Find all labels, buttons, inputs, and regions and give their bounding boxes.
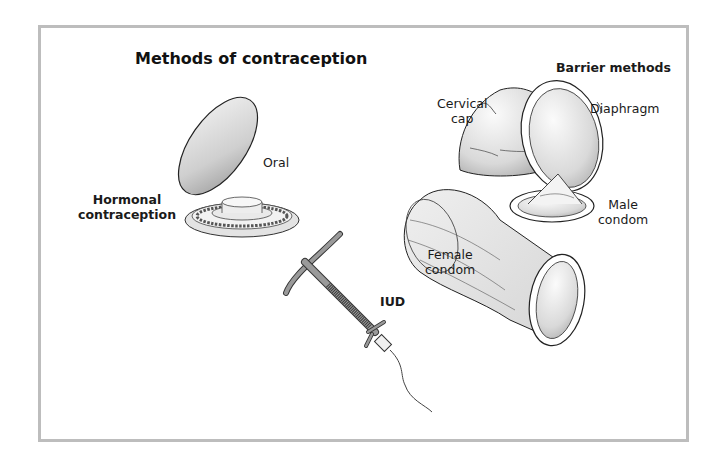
cervical-cap-label: Cervical cap	[437, 96, 487, 126]
male-condom-label-line-2: condom	[598, 212, 648, 227]
female-condom-label-line-2: condom	[425, 262, 475, 277]
male-condom-label-line-1: Male	[598, 197, 648, 212]
iud-label: IUD	[380, 294, 405, 309]
female-condom-label: Female condom	[425, 247, 475, 277]
cervical-cap-label-line-1: Cervical	[437, 96, 487, 111]
female-condom-label-line-1: Female	[425, 247, 475, 262]
hormonal-heading-line-1: Hormonal	[78, 192, 176, 207]
hormonal-heading: Hormonal contraception	[78, 192, 176, 222]
diagram-title: Methods of contraception	[135, 49, 367, 68]
oral-label: Oral	[263, 155, 289, 170]
male-condom-label: Male condom	[598, 197, 648, 227]
barrier-methods-heading: Barrier methods	[556, 60, 671, 75]
hormonal-heading-line-2: contraception	[78, 207, 176, 222]
cervical-cap-label-line-2: cap	[437, 111, 487, 126]
diaphragm-label: Diaphragm	[590, 101, 660, 116]
